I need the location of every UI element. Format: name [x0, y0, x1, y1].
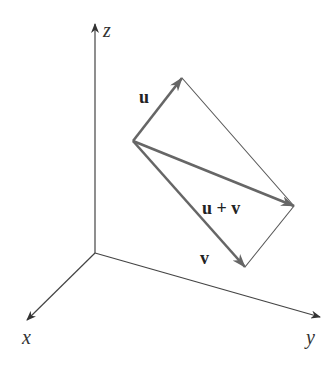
z-axis-label: z	[102, 19, 111, 41]
vectors	[133, 78, 294, 267]
y-axis-label: y	[304, 326, 315, 349]
x-axis-label: x	[21, 326, 31, 348]
vector-diagram: z x y u u + v v	[0, 0, 335, 386]
parallelogram-edges	[182, 78, 294, 267]
vector-sum-label: u + v	[202, 198, 240, 218]
edge-u-tip-to-sum	[182, 78, 294, 206]
vector-u-label: u	[139, 87, 149, 107]
axes	[27, 24, 320, 320]
edge-v-tip-to-sum	[245, 206, 294, 267]
vector-v-label: v	[200, 248, 209, 268]
diagram-canvas: z x y u u + v v	[0, 0, 335, 386]
x-axis	[27, 253, 95, 320]
vector-sum-arrow	[133, 141, 294, 206]
